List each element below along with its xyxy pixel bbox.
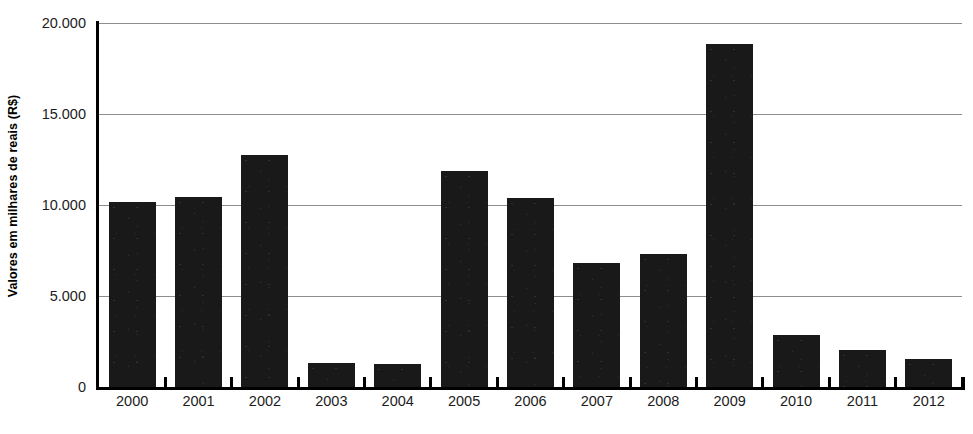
bar-2000 — [109, 202, 156, 387]
bars-group — [99, 23, 962, 387]
x-tick — [695, 377, 698, 390]
x-tick — [496, 377, 499, 390]
x-tick-label-2011: 2011 — [847, 393, 878, 409]
x-tick — [629, 377, 632, 390]
x-tick — [164, 377, 167, 390]
x-tick — [230, 377, 233, 390]
y-tick-label: 0 — [78, 379, 86, 395]
y-tick-label: 15.000 — [42, 106, 86, 122]
x-tick — [894, 377, 897, 390]
bar-2005 — [441, 171, 488, 387]
bar-2001 — [175, 197, 222, 387]
x-tick-label-2005: 2005 — [448, 393, 480, 409]
bar-chart-figure: Valores em milhares de reais (R$) 05.000… — [0, 0, 973, 434]
y-axis-line — [96, 21, 99, 389]
bar-2009 — [706, 44, 753, 387]
x-tick-label-2012: 2012 — [913, 393, 945, 409]
x-axis-ticks — [99, 377, 962, 390]
y-axis-title: Valores em milhares de reais (R$) — [0, 0, 26, 392]
y-axis-tick-labels: 05.00010.00015.00020.000 — [26, 0, 92, 392]
y-tick-label: 20.000 — [42, 15, 86, 31]
x-tick — [297, 377, 300, 390]
x-axis-tick-labels: 2000200120022003200420052006200720082009… — [99, 393, 962, 415]
bar-2006 — [507, 198, 554, 387]
x-tick-label-2000: 2000 — [116, 393, 148, 409]
plot-area — [99, 23, 962, 387]
x-tick — [961, 377, 964, 390]
x-tick-label-2006: 2006 — [514, 393, 546, 409]
x-tick-label-2008: 2008 — [647, 393, 679, 409]
y-tick-label: 5.000 — [50, 288, 86, 304]
x-tick — [429, 377, 432, 390]
x-tick-label-2002: 2002 — [249, 393, 281, 409]
y-axis-title-text: Valores em milhares de reais (R$) — [6, 95, 20, 298]
bar-2002 — [241, 155, 288, 387]
x-tick-label-2004: 2004 — [382, 393, 414, 409]
x-tick-label-2010: 2010 — [780, 393, 812, 409]
x-tick-label-2001: 2001 — [182, 393, 214, 409]
x-tick-label-2003: 2003 — [315, 393, 347, 409]
x-tick — [761, 377, 764, 390]
bar-2007 — [573, 263, 620, 387]
x-tick — [562, 377, 565, 390]
bar-2008 — [640, 254, 687, 387]
x-tick — [828, 377, 831, 390]
y-tick-label: 10.000 — [42, 197, 86, 213]
x-tick-label-2007: 2007 — [581, 393, 613, 409]
x-tick-label-2009: 2009 — [714, 393, 746, 409]
x-tick — [363, 377, 366, 390]
